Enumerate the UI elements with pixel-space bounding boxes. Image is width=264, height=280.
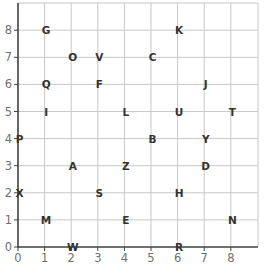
point-label-o: O (68, 51, 77, 63)
point-label-s: S (96, 187, 104, 199)
point-label-g: G (42, 24, 51, 36)
point-label-m: M (41, 214, 51, 226)
point-label-t: T (229, 106, 237, 118)
point-label-k: K (175, 24, 184, 36)
x-tick-label: 6 (174, 251, 181, 265)
point-label-u: U (175, 106, 184, 118)
point-label-n: N (228, 214, 237, 226)
point-label-w: W (67, 241, 79, 253)
y-tick-label: 7 (5, 50, 12, 64)
point-label-f: F (96, 78, 103, 90)
point-label-v: V (95, 51, 104, 63)
grid-lines (18, 3, 258, 247)
y-tick-label: 0 (5, 240, 12, 254)
point-label-z: Z (122, 160, 130, 172)
x-tick-label: 7 (201, 251, 208, 265)
y-tick-label: 8 (5, 23, 12, 37)
y-tick-label: 2 (5, 186, 12, 200)
x-tick-label: 8 (227, 251, 234, 265)
point-label-e: E (122, 214, 129, 226)
point-label-h: H (175, 187, 184, 199)
x-tick-label: 4 (121, 251, 128, 265)
point-label-p: P (16, 133, 24, 145)
point-label-c: C (149, 51, 157, 63)
point-label-i: I (44, 106, 48, 118)
x-tick-label: 1 (41, 251, 48, 265)
point-label-l: L (123, 106, 130, 118)
y-tick-label: 3 (5, 159, 12, 173)
point-label-q: Q (42, 78, 51, 90)
x-tick-label: 2 (68, 251, 75, 265)
x-tick-label: 3 (94, 251, 101, 265)
point-label-a: A (69, 160, 78, 172)
point-label-b: B (148, 133, 156, 145)
x-tick-label: 0 (14, 251, 21, 265)
axes (18, 3, 258, 248)
y-tick-label: 1 (5, 213, 12, 227)
point-label-y: Y (201, 133, 210, 145)
y-tick-label: 4 (5, 132, 12, 146)
point-label-r: R (175, 241, 183, 253)
point-label-d: D (201, 160, 210, 172)
x-tick-label: 5 (147, 251, 154, 265)
point-label-j: J (203, 78, 208, 90)
y-tick-label: 6 (5, 77, 12, 91)
x-axis-ticks: 012345678 (14, 247, 234, 265)
y-tick-label: 5 (5, 105, 12, 119)
letter-grid-chart: 012345678 012345678 GKOVCQFJILUTPBYAZDXS… (0, 0, 264, 280)
point-label-x: X (15, 187, 23, 199)
